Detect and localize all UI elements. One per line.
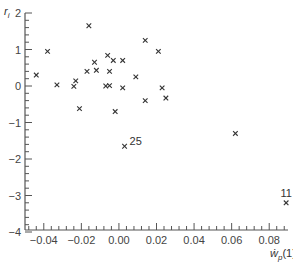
x-marker-icon <box>92 60 97 65</box>
data-points: 2511 <box>34 23 292 205</box>
x-marker-icon <box>55 83 60 88</box>
x-marker-icon <box>107 69 112 74</box>
x-tick-label: −0.02 <box>67 234 95 246</box>
x-marker-icon <box>122 144 127 149</box>
x-marker-icon <box>107 83 112 88</box>
y-tick-label: −2 <box>8 153 21 165</box>
y-tick-label: −1 <box>8 117 21 129</box>
x-tick-label: 0.00 <box>108 234 129 246</box>
y-tick-label: 1 <box>15 44 21 56</box>
x-marker-icon <box>120 86 125 91</box>
x-marker-icon <box>34 73 39 78</box>
y-tick-label: −4 <box>8 226 21 238</box>
x-marker-icon <box>85 69 90 74</box>
x-marker-icon <box>94 68 99 73</box>
x-marker-icon <box>73 79 78 84</box>
x-axis-title: ẇp(1) <box>270 247 293 262</box>
x-tick-label: 0.02 <box>146 234 167 246</box>
x-marker-icon <box>164 96 169 101</box>
x-marker-icon <box>143 98 148 103</box>
x-tick-label: 0.04 <box>183 234 204 246</box>
scatter-chart: −4−3−2−1012−0.04−0.020.000.020.040.060.0… <box>0 0 293 264</box>
axes: −4−3−2−1012−0.04−0.020.000.020.040.060.0… <box>8 7 288 246</box>
x-marker-icon <box>72 84 77 89</box>
x-marker-icon <box>233 131 238 136</box>
x-marker-icon <box>143 38 148 43</box>
x-tick-label: 0.06 <box>221 234 242 246</box>
x-marker-icon <box>45 49 50 54</box>
y-tick-label: −3 <box>8 190 21 202</box>
x-marker-icon <box>77 106 82 111</box>
point-label: 25 <box>130 135 142 147</box>
x-marker-icon <box>113 109 118 114</box>
x-marker-icon <box>105 53 110 58</box>
y-tick-label: 2 <box>15 7 21 19</box>
x-marker-icon <box>160 86 165 91</box>
x-marker-icon <box>111 58 116 63</box>
y-tick-label: 0 <box>15 80 21 92</box>
y-axis-title: ri <box>4 5 10 20</box>
x-marker-icon <box>120 58 125 63</box>
x-tick-label: −0.04 <box>30 234 58 246</box>
x-marker-icon <box>134 75 139 80</box>
x-marker-icon <box>284 201 289 206</box>
point-label: 11 <box>280 187 291 199</box>
x-tick-label: 0.08 <box>259 234 280 246</box>
x-marker-icon <box>156 49 161 54</box>
x-marker-icon <box>87 23 92 28</box>
